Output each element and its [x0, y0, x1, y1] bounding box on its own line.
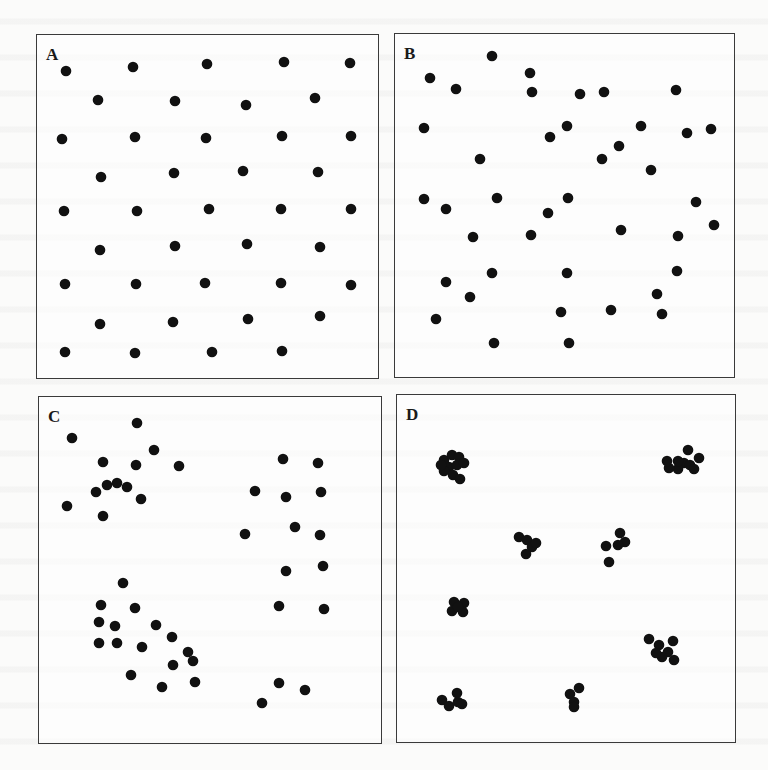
data-point: [279, 57, 290, 68]
data-point: [652, 289, 663, 300]
data-point: [564, 338, 575, 349]
data-point: [277, 131, 288, 142]
data-point: [131, 460, 142, 471]
panel-label: B: [404, 45, 415, 62]
data-point: [657, 309, 668, 320]
data-point: [94, 638, 105, 649]
data-point: [130, 603, 141, 614]
data-point: [662, 456, 673, 467]
data-point: [95, 245, 106, 256]
data-point: [281, 492, 292, 503]
data-point: [277, 346, 288, 357]
data-point: [241, 100, 252, 111]
data-point: [459, 458, 470, 469]
data-point: [613, 540, 624, 551]
data-point: [174, 461, 185, 472]
data-point: [441, 277, 452, 288]
data-point: [59, 206, 70, 217]
data-point: [318, 561, 329, 572]
data-point: [204, 204, 215, 215]
data-point: [452, 688, 463, 699]
data-point: [60, 347, 71, 358]
data-point: [689, 464, 700, 475]
data-point: [614, 141, 625, 152]
data-point: [451, 84, 462, 95]
data-point: [316, 487, 327, 498]
data-point: [201, 133, 212, 144]
data-point: [188, 656, 199, 667]
data-point: [556, 307, 567, 318]
data-point: [136, 494, 147, 505]
data-point: [290, 522, 301, 533]
data-point: [274, 601, 285, 612]
data-point: [346, 280, 357, 291]
data-point: [278, 454, 289, 465]
panel-label: C: [48, 408, 60, 425]
data-point: [281, 566, 292, 577]
data-point: [110, 621, 121, 632]
panel-label: D: [406, 406, 418, 423]
data-point: [112, 478, 123, 489]
data-point: [315, 242, 326, 253]
point-pattern-plot: [395, 34, 736, 379]
data-point: [599, 87, 610, 98]
data-point: [274, 678, 285, 689]
data-point: [597, 154, 608, 165]
data-point: [694, 453, 705, 464]
panel-label: A: [46, 46, 58, 63]
data-point: [132, 206, 143, 217]
data-point: [706, 124, 717, 135]
data-point: [170, 96, 181, 107]
data-point: [487, 51, 498, 62]
data-point: [300, 685, 311, 696]
data-point: [545, 132, 556, 143]
data-point: [240, 529, 251, 540]
panel-c: C: [38, 396, 382, 744]
data-point: [419, 123, 430, 134]
data-point: [122, 482, 133, 493]
data-point: [601, 541, 612, 552]
data-point: [668, 636, 679, 647]
data-point: [130, 132, 141, 143]
data-point: [543, 208, 554, 219]
data-point: [672, 266, 683, 277]
data-point: [98, 511, 109, 522]
data-point: [425, 73, 436, 84]
data-point: [604, 557, 615, 568]
data-point: [200, 278, 211, 289]
data-point: [691, 197, 702, 208]
data-point: [102, 480, 113, 491]
data-point: [61, 66, 72, 77]
data-point: [465, 292, 476, 303]
data-point: [475, 154, 486, 165]
data-point: [346, 204, 357, 215]
point-pattern-plot: [39, 397, 383, 745]
point-pattern-plot: [37, 35, 380, 380]
data-point: [531, 538, 542, 549]
data-point: [91, 487, 102, 498]
data-point: [574, 683, 585, 694]
data-point: [575, 89, 586, 100]
data-point: [453, 602, 464, 613]
data-point: [57, 134, 68, 145]
data-point: [313, 458, 324, 469]
data-point: [157, 682, 168, 693]
data-point: [183, 647, 194, 658]
data-point: [673, 456, 684, 467]
data-point: [345, 58, 356, 69]
data-point: [457, 699, 468, 710]
data-point: [202, 59, 213, 70]
data-point: [250, 486, 261, 497]
data-point: [646, 165, 657, 176]
data-point: [94, 617, 105, 628]
panel-b: B: [394, 33, 735, 378]
data-point: [671, 85, 682, 96]
data-point: [243, 314, 254, 325]
data-point: [207, 347, 218, 358]
data-point: [60, 279, 71, 290]
data-point: [526, 230, 537, 241]
data-point: [257, 698, 268, 709]
data-point: [310, 93, 321, 104]
data-point: [137, 642, 148, 653]
data-point: [436, 460, 447, 471]
